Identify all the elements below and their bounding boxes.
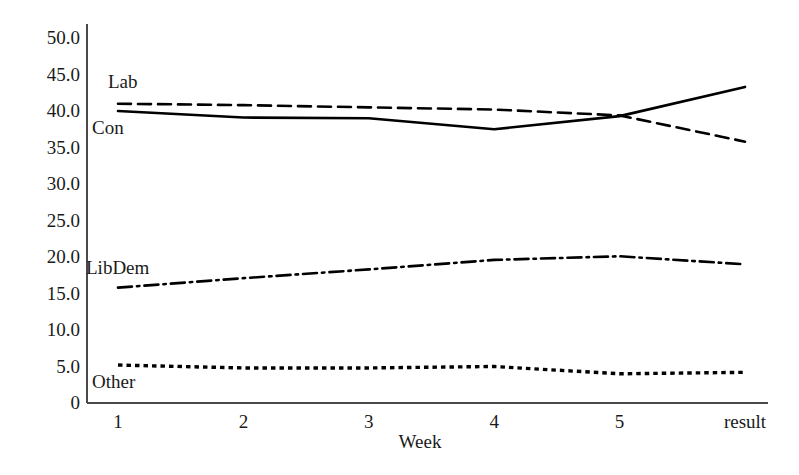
y-tick-label-40-0: 40.0 bbox=[8, 101, 80, 120]
x-tick-label-3: 3 bbox=[324, 412, 414, 431]
series-line-libdem bbox=[118, 256, 745, 287]
x-tick-label-2: 2 bbox=[198, 412, 288, 431]
y-tick-label-25-0: 25.0 bbox=[8, 211, 80, 230]
series-label-con: Con bbox=[92, 118, 124, 137]
series-label-libdem: LibDem bbox=[86, 258, 149, 277]
y-tick-label-10-0: 10.0 bbox=[8, 320, 80, 339]
series-line-other bbox=[118, 365, 745, 374]
axis-lines bbox=[87, 24, 768, 403]
y-tick-label-30-0: 30.0 bbox=[8, 174, 80, 193]
x-tick-label-1: 1 bbox=[73, 412, 163, 431]
x-tick-label-4: 4 bbox=[449, 412, 539, 431]
line-chart: 50.045.040.035.030.025.020.015.010.05.00… bbox=[0, 0, 799, 475]
x-axis-title: Week bbox=[375, 432, 465, 451]
y-tick-label-15-0: 15.0 bbox=[8, 284, 80, 303]
x-tick-label-5: 5 bbox=[575, 412, 665, 431]
y-tick-label-0: 0 bbox=[8, 393, 80, 412]
series-lines bbox=[118, 87, 745, 374]
y-tick-label-20-0: 20.0 bbox=[8, 247, 80, 266]
x-tick-label-result: result bbox=[700, 412, 790, 431]
y-tick-label-45-0: 45.0 bbox=[8, 65, 80, 84]
series-label-other: Other bbox=[92, 372, 135, 391]
y-tick-label-5-0: 5.0 bbox=[8, 357, 80, 376]
y-tick-label-50-0: 50.0 bbox=[8, 28, 80, 47]
series-label-lab: Lab bbox=[108, 72, 138, 91]
y-tick-label-35-0: 35.0 bbox=[8, 138, 80, 157]
